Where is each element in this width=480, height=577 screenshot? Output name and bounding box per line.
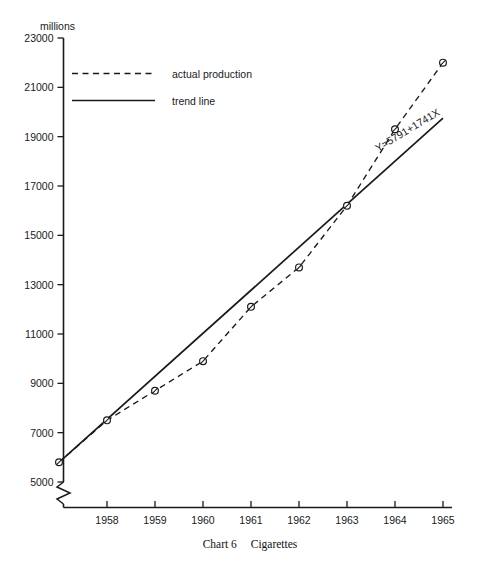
caption-subject: Cigarettes [251, 538, 298, 551]
y-tick-label: 7000 [30, 427, 54, 439]
x-tick-label: 1964 [383, 514, 407, 526]
x-tick-label: 1960 [191, 514, 215, 526]
x-tick-label: 1962 [287, 514, 311, 526]
legend-label-actual-production: actual production [172, 68, 252, 80]
data-point-marker [440, 59, 447, 66]
data-point-marker [248, 303, 255, 310]
y-tick-group: 5000700090001100013000150001700019000210… [24, 32, 63, 488]
chart-svg: millions 5000700090001100013000150001700… [0, 0, 480, 577]
axes-group [57, 38, 452, 508]
data-point-marker [152, 387, 159, 394]
caption-number: Chart 6 [203, 538, 237, 550]
x-tick-group: 19581959196019611962196319641965 [95, 501, 455, 526]
data-point-marker [56, 459, 63, 466]
data-series-layer [56, 59, 447, 465]
y-tick-label: 9000 [30, 377, 54, 389]
series-line-trend-line [59, 118, 443, 462]
x-tick-label: 1961 [239, 514, 263, 526]
y-tick-label: 13000 [24, 279, 53, 291]
legend-label-trend-line: trend line [172, 95, 215, 107]
y-tick-label: 19000 [24, 131, 53, 143]
data-point-marker [104, 417, 111, 424]
y-tick-label: 5000 [30, 476, 54, 488]
y-tick-label: 15000 [24, 229, 53, 241]
legend: actual production trend line [72, 68, 252, 107]
x-tick-label: 1965 [431, 514, 455, 526]
y-axis-unit-label: millions [40, 20, 75, 32]
y-tick-label: 17000 [24, 180, 53, 192]
x-tick-label: 1958 [95, 514, 119, 526]
x-tick-label: 1959 [143, 514, 167, 526]
chart-container: millions 5000700090001100013000150001700… [0, 0, 480, 577]
y-axis-break-icon [57, 482, 70, 504]
y-tick-label: 23000 [24, 32, 53, 44]
y-tick-label: 21000 [24, 81, 53, 93]
data-point-marker [344, 202, 351, 209]
data-point-marker [200, 358, 207, 365]
y-tick-label: 11000 [25, 328, 54, 340]
data-point-marker [296, 264, 303, 271]
series-line-actual-production [59, 63, 443, 463]
x-tick-label: 1963 [335, 514, 359, 526]
chart-caption: Chart 6 Cigarettes [203, 538, 298, 551]
